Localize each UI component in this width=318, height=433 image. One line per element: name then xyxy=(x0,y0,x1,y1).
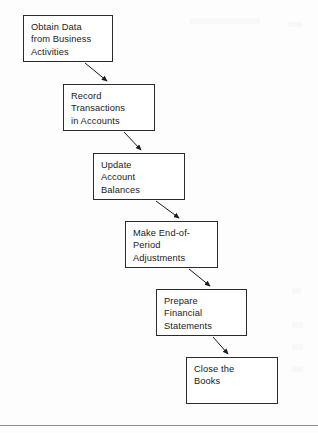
connector-arrow-update-to-adjustments xyxy=(156,201,179,218)
scan-artifact xyxy=(292,288,301,294)
connector-arrow-record-to-update xyxy=(124,132,141,150)
page-footer-rule xyxy=(0,425,318,426)
connector-arrow-prepare-to-close xyxy=(213,337,228,354)
connector-arrow-obtain-to-record xyxy=(85,63,107,81)
connector-arrow-adjustments-to-prepare xyxy=(189,269,210,286)
flow-step-update-balances[interactable]: Update Account Balances xyxy=(93,153,185,200)
flow-step-close-the-books[interactable]: Close the Books xyxy=(186,357,278,404)
flow-step-end-of-period-adjustments[interactable]: Make End-of- Period Adjustments xyxy=(125,221,218,268)
flowchart-canvas: Obtain Data from Business Activities Rec… xyxy=(0,0,318,433)
scan-artifact xyxy=(292,322,303,328)
flow-step-prepare-financial-statements[interactable]: Prepare Financial Statements xyxy=(156,289,247,336)
scan-artifact xyxy=(190,18,260,24)
flow-step-obtain-data[interactable]: Obtain Data from Business Activities xyxy=(23,15,113,62)
scan-artifact xyxy=(292,344,303,350)
scan-artifact xyxy=(288,22,302,27)
flow-step-record-transactions[interactable]: Record Transactions in Accounts xyxy=(63,84,155,131)
scan-artifact xyxy=(292,366,303,372)
